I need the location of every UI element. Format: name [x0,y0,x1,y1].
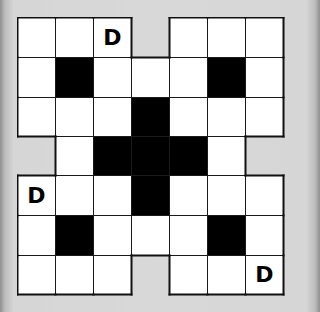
block-cell [55,57,94,98]
grid-cell[interactable] [245,97,284,137]
crossword-grid: DDD [17,17,283,294]
grid-cell[interactable] [245,17,284,58]
given-letter: D [27,185,45,207]
grid-cell[interactable]: D [17,175,56,216]
grid-cell[interactable] [131,57,170,98]
block-cell [131,175,170,216]
grid-cell[interactable] [55,136,94,176]
grid-cell[interactable] [207,175,246,216]
grid-cell[interactable] [169,17,208,58]
grid-cell[interactable] [17,57,56,98]
grid-cell[interactable] [93,215,132,256]
grid-cell[interactable] [169,97,208,137]
void-area [17,136,56,176]
grid-cell[interactable] [17,215,56,256]
grid-cell[interactable] [17,17,56,58]
grid-cell[interactable] [169,175,208,216]
block-cell [207,57,246,98]
void-area [131,17,170,58]
given-letter: D [103,27,121,49]
grid-cell[interactable] [207,136,246,176]
void-area [131,255,170,295]
grid-cell[interactable] [17,255,56,295]
grid-cell[interactable] [207,255,246,295]
grid-cell[interactable] [55,255,94,295]
given-letter: D [255,264,273,286]
grid-cell[interactable] [207,17,246,58]
grid-cell[interactable] [245,215,284,256]
grid-cell[interactable] [131,215,170,256]
grid-cell[interactable] [17,97,56,137]
grid-cell[interactable] [93,57,132,98]
block-cell [131,136,170,176]
block-cell [55,215,94,256]
grid-cell[interactable] [55,97,94,137]
grid-cell[interactable] [55,17,94,58]
grid-cell[interactable] [169,255,208,295]
grid-cell[interactable] [245,57,284,98]
block-cell [169,136,208,176]
block-cell [207,215,246,256]
block-cell [131,97,170,137]
grid-cell[interactable] [245,175,284,216]
grid-cell[interactable] [93,97,132,137]
block-cell [93,136,132,176]
grid-cell[interactable] [169,57,208,98]
grid-cell[interactable] [207,97,246,137]
grid-cell[interactable]: D [245,255,284,295]
void-area [245,136,284,176]
grid-cell[interactable] [93,175,132,216]
grid-cell[interactable] [55,175,94,216]
grid-cell[interactable]: D [93,17,132,58]
grid-cell[interactable] [169,215,208,256]
grid-cell[interactable] [93,255,132,295]
